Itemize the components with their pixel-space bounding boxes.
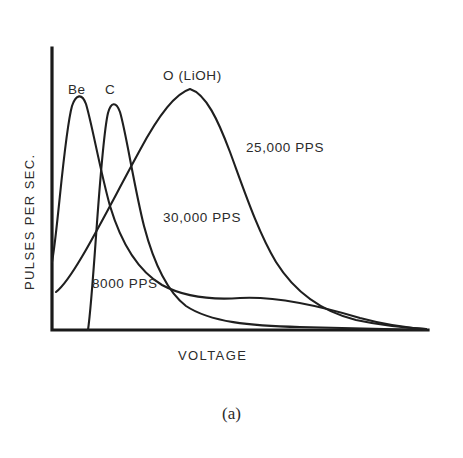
annotation-25000-pps: 25,000 PPS (246, 140, 324, 155)
y-axis-title: PULSES PER SEC. (22, 153, 37, 290)
pulse-height-spectrum-chart: Be C O (LiOH) 25,000 PPS 30,000 PPS 8000… (0, 0, 463, 458)
peak-label-o-lioh: O (LiOH) (163, 68, 222, 83)
x-axis-title: VOLTAGE (178, 348, 247, 363)
curve-c (88, 104, 426, 330)
figure-container: Be C O (LiOH) 25,000 PPS 30,000 PPS 8000… (0, 0, 463, 458)
figure-caption: (a) (0, 404, 463, 424)
peak-label-c: C (105, 82, 115, 97)
annotation-30000-pps: 30,000 PPS (163, 210, 241, 225)
annotation-8000-pps: 8000 PPS (92, 276, 158, 291)
peak-label-be: Be (68, 82, 86, 97)
